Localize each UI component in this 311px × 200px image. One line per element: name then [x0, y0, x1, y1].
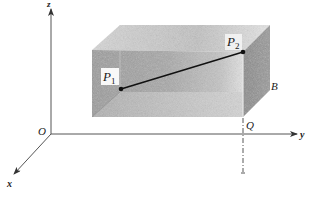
origin-label: O: [38, 125, 46, 137]
coordinate-box-diagram: P1 P2 B Q O z y x: [0, 0, 311, 200]
z-axis-label: z: [46, 0, 51, 9]
y-axis-label: y: [299, 129, 305, 140]
b-label: B: [271, 80, 278, 92]
x-axis: [14, 134, 51, 174]
q-label: Q: [246, 119, 254, 131]
point-p2: [241, 50, 246, 55]
x-axis-label: x: [6, 178, 12, 189]
point-p1: [119, 87, 124, 92]
box-top-face: [92, 25, 270, 52]
